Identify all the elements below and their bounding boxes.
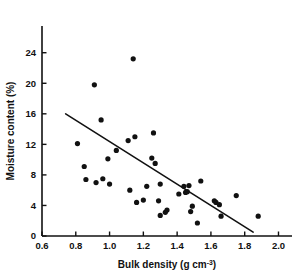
data-point bbox=[158, 181, 163, 186]
data-point bbox=[99, 117, 104, 122]
data-point bbox=[217, 202, 222, 207]
data-point bbox=[188, 209, 193, 214]
data-point bbox=[164, 207, 169, 212]
data-point bbox=[156, 198, 161, 203]
data-point bbox=[256, 214, 261, 219]
axes bbox=[42, 26, 292, 236]
y-axis-tick-label: 16 bbox=[25, 108, 36, 119]
data-point bbox=[151, 130, 156, 135]
data-point bbox=[195, 220, 200, 225]
x-axis-tick-label: 0.8 bbox=[69, 240, 82, 251]
data-point bbox=[158, 213, 163, 218]
data-point bbox=[144, 184, 149, 189]
data-point bbox=[149, 156, 154, 161]
x-axis-tick-label: 2.0 bbox=[272, 240, 285, 251]
x-axis-tick-label: 1.6 bbox=[204, 240, 217, 251]
x-axis-tick-label: 1.8 bbox=[238, 240, 251, 251]
data-point bbox=[83, 177, 88, 182]
data-point bbox=[186, 183, 191, 188]
x-axis-tick-label: 1.2 bbox=[137, 240, 150, 251]
y-axis-tick-labels: 04812162024 bbox=[25, 47, 36, 241]
data-point bbox=[82, 164, 87, 169]
scatter-plot-figure: 0.60.81.01.21.41.61.82.0 04812162024 Bul… bbox=[0, 0, 307, 279]
data-point bbox=[176, 191, 181, 196]
y-axis-tick-label: 24 bbox=[25, 47, 36, 58]
y-axis-tick-label: 4 bbox=[31, 200, 37, 211]
data-point bbox=[126, 138, 131, 143]
data-point bbox=[131, 56, 136, 61]
data-point bbox=[234, 193, 239, 198]
data-point bbox=[141, 198, 146, 203]
data-point bbox=[190, 204, 195, 209]
plot-canvas: 0.60.81.01.21.41.61.82.0 04812162024 Bul… bbox=[0, 0, 307, 279]
data-point bbox=[114, 148, 119, 153]
y-axis-tick-label: 0 bbox=[31, 230, 36, 241]
y-axis-tick-label: 12 bbox=[25, 139, 36, 150]
data-points-group bbox=[75, 56, 261, 225]
data-point bbox=[93, 180, 98, 185]
data-point bbox=[218, 214, 223, 219]
data-point bbox=[134, 200, 139, 205]
data-point bbox=[185, 189, 190, 194]
y-axis-tick-label: 20 bbox=[25, 78, 36, 89]
data-point bbox=[100, 176, 105, 181]
data-point bbox=[198, 178, 203, 183]
x-axis-tick-label: 1.4 bbox=[171, 240, 185, 251]
data-point bbox=[127, 188, 132, 193]
data-point bbox=[132, 134, 137, 139]
data-point bbox=[107, 181, 112, 186]
data-point bbox=[181, 184, 186, 189]
x-axis-tick-label: 1.0 bbox=[103, 240, 116, 251]
y-axis-title: Moisture content (%) bbox=[5, 82, 16, 181]
y-axis-tick-label: 8 bbox=[31, 169, 36, 180]
data-point bbox=[92, 82, 97, 87]
data-point bbox=[153, 161, 158, 166]
data-point bbox=[75, 141, 80, 146]
data-point bbox=[105, 156, 110, 161]
x-axis-tick-label: 0.6 bbox=[35, 240, 48, 251]
x-axis-tick-labels: 0.60.81.01.21.41.61.82.0 bbox=[35, 240, 285, 251]
x-axis-title: Bulk density (g cm-3) bbox=[118, 259, 216, 271]
